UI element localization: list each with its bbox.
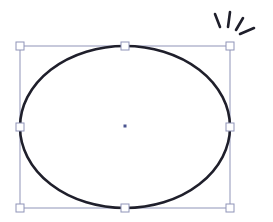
handle-top-left[interactable] xyxy=(16,42,24,50)
handle-bottom-left[interactable] xyxy=(16,204,24,212)
drawing-canvas[interactable] xyxy=(0,0,273,222)
center-point[interactable] xyxy=(124,125,127,128)
spark-line xyxy=(215,14,220,27)
handle-middle-right[interactable] xyxy=(226,123,234,131)
handle-bottom-center[interactable] xyxy=(121,204,129,212)
handle-middle-left[interactable] xyxy=(16,123,24,131)
spark-line xyxy=(236,18,243,30)
spark-line xyxy=(240,28,254,34)
spark-line xyxy=(228,12,230,27)
handle-top-right[interactable] xyxy=(226,42,234,50)
handle-bottom-right[interactable] xyxy=(226,204,234,212)
highlight-spark-icon xyxy=(215,12,254,34)
handle-top-center[interactable] xyxy=(121,42,129,50)
